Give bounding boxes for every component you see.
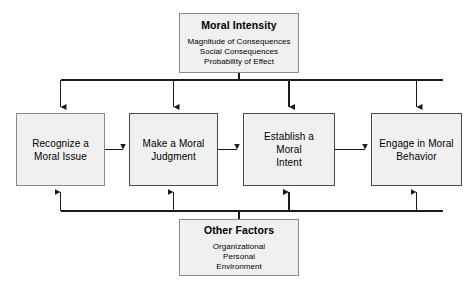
node-establish-moral-intent: Establish a Moral Intent xyxy=(243,113,335,186)
moral-intensity-item-2: Social Consequences xyxy=(187,47,290,57)
judgment-line-1: Make a Moral xyxy=(143,138,205,149)
other-factors-item-2: Personal xyxy=(213,252,265,262)
node-moral-intensity: Moral Intensity Magnitude of Consequence… xyxy=(179,13,299,73)
recognize-moral-issue-label: Recognize a Moral Issue xyxy=(26,137,95,163)
moral-decision-making-diagram: Moral Intensity Magnitude of Consequence… xyxy=(0,0,474,292)
moral-intensity-title: Moral Intensity xyxy=(201,19,277,32)
intent-line-2: Intent xyxy=(276,157,302,168)
node-recognize-moral-issue: Recognize a Moral Issue xyxy=(16,113,105,186)
other-factors-item-1: Organizational xyxy=(213,242,265,252)
moral-intensity-item-3: Probability of Effect xyxy=(187,57,290,67)
behavior-line-1: Engage in Moral xyxy=(379,138,453,149)
moral-intensity-item-1: Magnitude of Consequences xyxy=(187,37,290,47)
node-make-moral-judgment: Make a Moral Judgment xyxy=(129,113,218,186)
recognize-line-2: Moral Issue xyxy=(34,151,87,162)
other-factors-title: Other Factors xyxy=(204,224,274,237)
moral-intensity-items: Magnitude of Consequences Social Consequ… xyxy=(187,37,290,67)
make-moral-judgment-label: Make a Moral Judgment xyxy=(137,137,211,163)
engage-in-moral-behavior-label: Engage in Moral Behavior xyxy=(373,137,459,163)
other-factors-item-3: Environment xyxy=(213,262,265,272)
node-other-factors: Other Factors Organizational Personal En… xyxy=(179,219,299,276)
node-engage-in-moral-behavior: Engage in Moral Behavior xyxy=(371,113,462,186)
behavior-line-2: Behavior xyxy=(396,151,436,162)
establish-moral-intent-label: Establish a Moral Intent xyxy=(244,130,334,169)
judgment-line-2: Judgment xyxy=(151,151,196,162)
intent-line-1: Establish a Moral xyxy=(264,131,314,155)
other-factors-items: Organizational Personal Environment xyxy=(213,242,265,272)
recognize-line-1: Recognize a xyxy=(32,138,89,149)
